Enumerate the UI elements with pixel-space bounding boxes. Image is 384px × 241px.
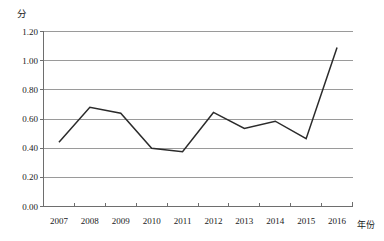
x-axis-tick-labels: 2007200820092010201120122013201420152016 [0, 0, 384, 241]
x-axis-label-2007: 2007 [50, 217, 68, 226]
x-axis-label-2014: 2014 [266, 217, 284, 226]
x-axis-label-2015: 2015 [297, 217, 315, 226]
x-axis-label-2010: 2010 [143, 217, 161, 226]
x-axis-label-2016: 2016 [328, 217, 346, 226]
x-axis-label-2008: 2008 [81, 217, 99, 226]
x-axis-label-2013: 2013 [235, 217, 253, 226]
x-axis-title: 年份 [357, 218, 375, 231]
x-axis-label-2009: 2009 [112, 217, 130, 226]
x-axis-label-2011: 2011 [174, 217, 192, 226]
line-chart: 0.000.200.400.600.801.001.20 20072008200… [0, 0, 384, 241]
y-axis-title: 分 [17, 6, 27, 20]
x-axis-label-2012: 2012 [204, 217, 222, 226]
